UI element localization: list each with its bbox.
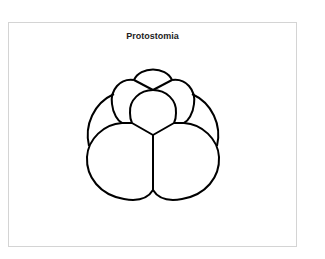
top-cell <box>134 70 172 81</box>
big-right-cell <box>153 123 219 200</box>
center-cell <box>130 90 176 135</box>
embryo-diagram <box>0 0 325 259</box>
upper-right-inner <box>153 80 172 90</box>
upper-left-inner <box>134 80 153 90</box>
big-left-cell <box>87 123 153 200</box>
left-side-cell <box>88 94 114 146</box>
right-side-cell <box>192 94 218 146</box>
